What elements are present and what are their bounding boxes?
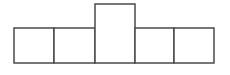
box-1 <box>14 28 54 63</box>
five-box-diagram <box>0 0 230 75</box>
box-5 <box>174 28 214 63</box>
box-3-tall <box>95 4 135 63</box>
box-2 <box>54 28 95 63</box>
box-4 <box>135 28 174 63</box>
